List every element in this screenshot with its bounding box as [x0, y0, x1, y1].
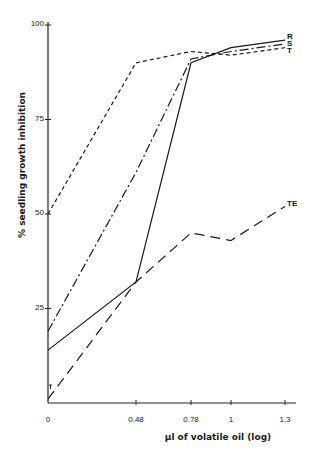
- series-line-t: [48, 48, 285, 214]
- y-tick-label: 100: [31, 19, 45, 28]
- axes: [48, 22, 296, 403]
- x-tick-label: 1: [229, 415, 234, 424]
- y-tick-label: 75: [35, 114, 44, 123]
- series-lines: [48, 40, 285, 399]
- x-tick-label: 0.48: [128, 415, 144, 424]
- x-tick-label: 1.3: [279, 415, 291, 424]
- series-labels: RSTTE: [49, 32, 298, 389]
- series-line-te: [48, 206, 285, 399]
- x-tick-label: 0: [46, 415, 51, 424]
- series-label-t: T: [287, 46, 292, 55]
- y-tick-label: 25: [35, 303, 44, 312]
- x-axis-title: µl of volatile oil (log): [165, 432, 271, 442]
- series-line-s: [48, 44, 285, 331]
- x-tick-label: 0.78: [183, 415, 199, 424]
- y-axis-title: % seedling growth inhibition: [17, 92, 27, 238]
- y-tick-label: 50: [35, 208, 44, 217]
- series-line-r: [48, 40, 285, 350]
- line-chart: 255075100 00.480.7811.3 RSTTE % seedling…: [0, 0, 314, 452]
- origin-marker-icon: [49, 385, 52, 389]
- series-label-te: TE: [287, 199, 298, 208]
